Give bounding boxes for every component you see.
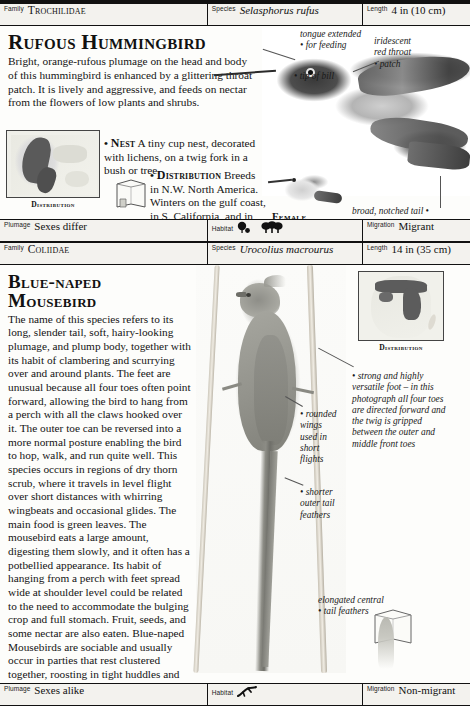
length-label: Length <box>367 244 387 251</box>
plumage-label: Plumage <box>4 221 30 228</box>
anno-tip-of-bill: • tip of bill <box>294 71 334 82</box>
anno-tongue-extended: tongue extended • for feeding <box>300 29 361 52</box>
family-label: Family <box>4 244 24 251</box>
entry2-title-line1: Blue-naped <box>8 271 102 292</box>
nest-bullet: • <box>104 137 111 149</box>
entry2-description: The name of this species refers to its l… <box>0 313 196 683</box>
entry1-body: Rufous Hummingbird Bright, orange-rufous… <box>0 26 470 219</box>
entry1-family-cell: Family Trochilidae <box>0 4 207 25</box>
field-guide-page: Family Trochilidae Species Selasphorus r… <box>0 0 470 706</box>
entry1-distribution-paragraph: • Distribution Breeds in N.W. North Amer… <box>150 168 266 219</box>
anno-iridescent-throat: iridescent red throat • patch <box>374 36 411 70</box>
entry2-habitat-cell: Habitat <box>207 684 362 705</box>
distribution-map <box>358 271 444 341</box>
distribution-bullet: • <box>150 169 157 181</box>
entry1-header-bar: Family Trochilidae Species Selasphorus r… <box>0 3 470 26</box>
shrub-icon <box>237 220 252 238</box>
anno-shorter-outer-tail: • shorter outer tail feathers <box>300 487 335 521</box>
species-value: Selasphorus rufus <box>240 4 319 16</box>
anno-rounded-wings: • rounded wings used in short flights <box>300 409 337 465</box>
species-entry-blue-naped-mousebird: Family Coliidae Species Urocolius macrou… <box>0 242 470 706</box>
mousebird-silhouette-icon <box>378 617 394 669</box>
plumage-label: Plumage <box>4 685 30 692</box>
family-value: Coliidae <box>28 243 70 255</box>
migration-value: Migrant <box>399 220 434 232</box>
length-value: 14 in (35 cm) <box>391 243 451 255</box>
entry2-length-cell: Length 14 in (35 cm) <box>362 243 470 264</box>
entry2-body: Distribution Blue-naped Mousebird The na… <box>0 265 470 683</box>
entry1-migration-cell: Migration Migrant <box>362 220 470 241</box>
entry1-plumage-cell: Plumage Sexes differ <box>0 220 207 241</box>
entry1-distribution-map-block: Distribution <box>6 130 100 209</box>
species-label: Species <box>212 244 236 251</box>
distribution-map <box>6 130 100 198</box>
distribution-label: Distribution <box>157 168 221 182</box>
entry2-footer-bar: Plumage Sexes alike Habitat Migration No… <box>0 683 470 706</box>
leader-line-tail <box>440 176 441 208</box>
plumage-value: Sexes differ <box>34 220 87 232</box>
nest-icon <box>114 176 148 210</box>
migration-value: Non-migrant <box>399 684 456 696</box>
length-value: 4 in (10 cm) <box>391 4 445 16</box>
length-label: Length <box>367 5 387 12</box>
scrub-icon <box>237 684 257 702</box>
habitat-label: Habitat <box>212 689 233 696</box>
entry1-map-caption: Distribution <box>6 200 100 209</box>
family-value: Trochilidae <box>28 4 86 16</box>
trees-icon <box>261 220 283 238</box>
nest-label: Nest <box>111 136 136 150</box>
entry2-map-caption: Distribution <box>358 343 444 352</box>
entry1-habitat-cell: Habitat <box>207 220 362 241</box>
entry2-distribution-map-block: Distribution <box>358 271 444 352</box>
entry2-page-title: Blue-naped Mousebird <box>0 265 190 313</box>
migration-label: Migration <box>367 685 395 692</box>
entry1-footer-bar: Plumage Sexes differ Habitat <box>0 219 470 242</box>
species-label: Species <box>212 5 236 12</box>
rufous-hummingbird-female-photo <box>268 168 342 214</box>
entry2-family-cell: Family Coliidae <box>0 243 207 264</box>
anno-versatile-foot: • strong and highly versatile foot – in … <box>352 371 470 450</box>
entry2-species-cell: Species Urocolius macrourus <box>207 243 362 264</box>
entry2-plumage-cell: Plumage Sexes alike <box>0 684 207 705</box>
entry2-migration-cell: Migration Non-migrant <box>362 684 470 705</box>
plumage-value: Sexes alike <box>34 684 84 696</box>
habitat-label: Habitat <box>212 225 233 232</box>
species-value: Urocolius macrourus <box>240 243 334 255</box>
entry1-length-cell: Length 4 in (10 cm) <box>362 4 470 25</box>
anno-notched-tail: broad, notched tail • <box>352 206 429 217</box>
entry2-title-line2: Mousebird <box>8 290 97 311</box>
entry1-species-cell: Species Selasphorus rufus <box>207 4 362 25</box>
female-caption: Female <box>272 211 306 219</box>
entry2-header-bar: Family Coliidae Species Urocolius macrou… <box>0 242 470 265</box>
species-entry-rufous-hummingbird: Family Trochilidae Species Selasphorus r… <box>0 3 470 242</box>
anno-elongated-central-tail: elongated central • tail feathers <box>318 595 384 618</box>
migration-label: Migration <box>367 221 395 228</box>
family-label: Family <box>4 5 24 12</box>
